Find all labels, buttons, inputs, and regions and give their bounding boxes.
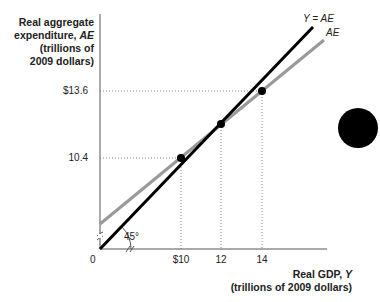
y-tick-10-4: 10.4 [69, 152, 88, 164]
point-12 [217, 120, 225, 128]
y-axis-title: Real aggregate expenditure, AE (trillion… [2, 16, 94, 68]
y-equals-ae-text: Y = AE [303, 13, 334, 24]
y-axis-title-prefix: expenditure, [14, 29, 79, 41]
x-axis-variable: Y [345, 268, 352, 280]
large-dot-marker [338, 108, 378, 148]
x-tick-12: 12 [206, 254, 236, 266]
x-axis-title-prefix: Real GDP, [293, 268, 345, 280]
y-axis-break-gap [98, 234, 102, 238]
ae-label: AE [326, 27, 339, 39]
y-equals-ae-label: Y = AE [303, 13, 334, 25]
angle-label: 45° [124, 231, 139, 243]
x-tick-14: 14 [247, 254, 277, 266]
y-axis-variable: AE [79, 29, 94, 41]
y-tick-13-6: $13.6 [63, 85, 88, 97]
x-tick-10: $10 [166, 254, 196, 266]
origin-label: 0 [90, 254, 96, 266]
y-axis-title-line3: (trillions of [2, 42, 94, 55]
point-10 [177, 154, 185, 162]
point-14 [258, 87, 266, 95]
ae-text: AE [326, 27, 339, 38]
x-axis-title-line2: (trillions of 2009 dollars) [231, 281, 352, 294]
x-axis-title-line1: Real GDP, Y [231, 268, 352, 281]
y-axis-title-line1: Real aggregate [2, 16, 94, 29]
y-axis-title-line2: expenditure, AE [2, 29, 94, 42]
y-equals-ae-line [100, 27, 313, 249]
x-axis-title: Real GDP, Y (trillions of 2009 dollars) [231, 268, 352, 294]
y-axis-title-line4: 2009 dollars) [2, 55, 94, 68]
